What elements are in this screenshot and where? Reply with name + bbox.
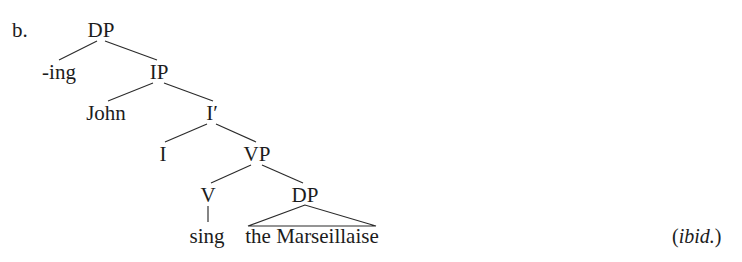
node-marseillaise-leaf: the Marseillaise: [245, 226, 379, 247]
branch-ip-to-john: [108, 83, 153, 101]
node-dp-top: DP: [88, 20, 115, 41]
example-item-label: b.: [12, 20, 28, 41]
dp-object-triangle: [248, 205, 376, 226]
branch-ibar-to-vp: [216, 124, 256, 142]
node-john-leaf: John: [86, 103, 126, 124]
branch-ip-to-ibar: [164, 83, 213, 101]
citation-close-paren: ): [715, 225, 722, 247]
node-ing-leaf: -ing: [42, 62, 76, 83]
branch-dp-to-ing: [59, 41, 97, 60]
node-vp: VP: [244, 144, 271, 165]
syntax-tree-figure: b. DP -ing IP John I′ I VP V DP sing the…: [0, 0, 742, 262]
branch-vp-to-dp-object: [262, 165, 303, 183]
node-dp-object: DP: [292, 185, 319, 206]
branch-dp-to-ip: [105, 41, 157, 60]
node-i: I: [160, 144, 167, 165]
node-v: V: [200, 185, 215, 206]
branch-ibar-to-i: [165, 124, 207, 142]
branch-vp-to-v: [211, 165, 251, 183]
citation-reference: (ibid.): [672, 226, 721, 246]
node-i-bar: I′: [206, 103, 218, 124]
citation-open-paren: (: [672, 225, 679, 247]
citation-source-text: ibid.: [679, 225, 715, 247]
node-ip: IP: [150, 62, 169, 83]
node-sing-leaf: sing: [189, 226, 224, 247]
